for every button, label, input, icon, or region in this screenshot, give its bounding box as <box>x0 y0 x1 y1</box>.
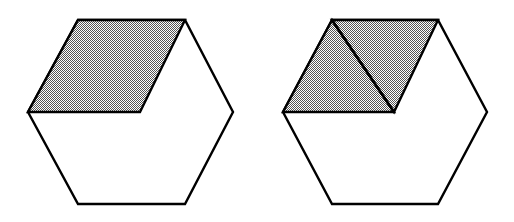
figure-canvas <box>0 0 514 222</box>
